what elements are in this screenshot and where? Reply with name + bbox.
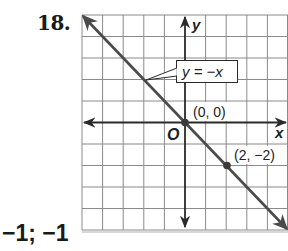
equation-callout-pointer [146,68,177,80]
point-2-neg2 [223,162,231,170]
x-axis-label: x [274,124,284,141]
origin-point-label: (0, 0) [193,104,226,120]
coordinate-graph: y = −x y x O (0, 0) (2, −2) [0,0,288,251]
y-axis-label: y [191,16,201,33]
point-2-neg2-label: (2, −2) [234,147,275,163]
point-origin [181,119,189,127]
origin-o-label: O [167,126,180,143]
equation-label: y = −x [181,63,223,80]
